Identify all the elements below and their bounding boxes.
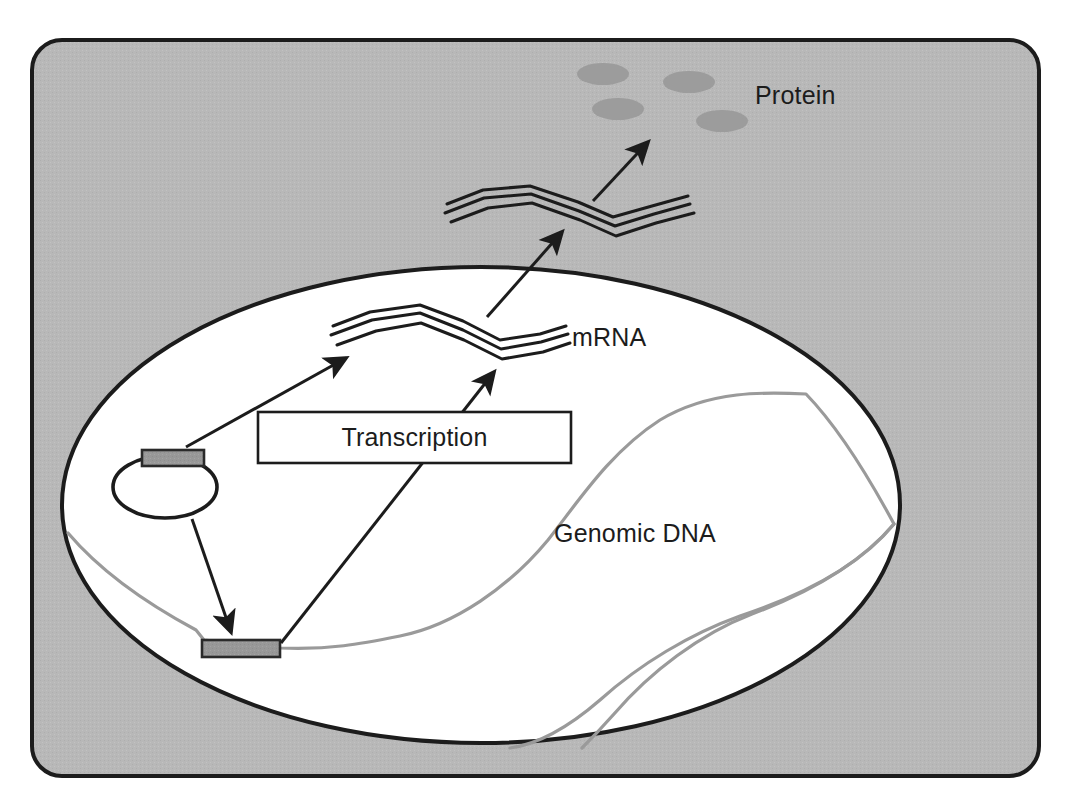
protein-blob xyxy=(577,63,629,85)
mrna-label: mRNA xyxy=(572,323,646,352)
gene-box-plasmid xyxy=(142,450,204,466)
transcription-diagram: Protein mRNA Genomic DNA Transcription xyxy=(0,0,1069,806)
genomic-dna-label: Genomic DNA xyxy=(554,519,716,548)
protein-blob xyxy=(696,110,748,132)
protein-blob xyxy=(592,98,644,120)
diagram-canvas xyxy=(0,0,1069,806)
transcription-label: Transcription xyxy=(258,412,571,463)
protein-blob xyxy=(663,71,715,93)
gene-box-genomic xyxy=(202,640,280,657)
protein-label: Protein xyxy=(755,81,836,110)
